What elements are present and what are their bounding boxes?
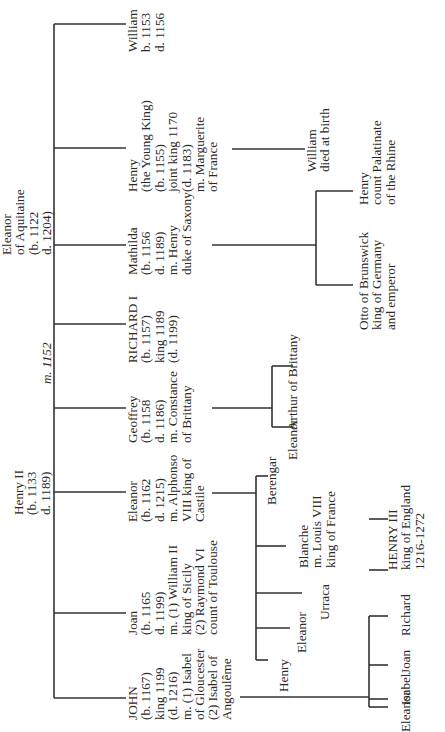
grandchild-otto-of-brunswick: Otto of Brunswickking of Germanyand empe…: [357, 232, 397, 330]
child-geoffrey: Geoffrey(b. 1158d. 1186)m. Constanceof B…: [126, 371, 193, 443]
grandchild-henry-of-castile: Henry: [277, 659, 290, 692]
grandchild-urraca: Urraca: [318, 584, 331, 620]
mother-eleanor-of-aquitaine: Eleanor of Aquitaine (b. 1122 d. 1204): [0, 189, 54, 255]
grandchild-berengar: Berengar: [265, 457, 278, 505]
child-mathilda: Mathilda(b. 1156d. 1189)m. Henryduke of …: [126, 192, 193, 275]
grandchild-joan: Joan: [399, 650, 412, 674]
grandchild-arthur-of-brittany: Arthur of Brittany: [286, 334, 299, 430]
tree-connectors: [0, 0, 445, 732]
grandchild-william-died-at-birth: Williamdied at birth: [305, 108, 332, 172]
grandchild-eleanor-of-castile-daughter: Eleanor: [295, 612, 308, 653]
grandchild-blanche: Blanchem. Louis VIIIking of France: [297, 491, 337, 568]
child-john: JOHN(b. 1167)king 1199(d. 1216)m. (1) Is…: [126, 649, 233, 720]
child-eleanor: Eleanor(b. 1162d. 1215)m. AlphonsoVIII k…: [126, 455, 206, 522]
grandchild-henry-count-palatinate: Henrycount Palatinateof the Rhine: [357, 120, 397, 205]
marriage-label: m. 1152: [40, 342, 53, 384]
grandchild-eleanor-of-brittany: Eleanor: [286, 419, 299, 460]
father-henry-ii: Henry II (b. 1133 d. 1189): [12, 470, 52, 515]
grandchild-eleanor-of-england: Eleanor: [399, 691, 412, 732]
child-william: Williamb. 1153d. 1156: [126, 9, 166, 52]
grandchild-henry-iii: HENRY IIIking of England1216-1272: [386, 485, 426, 570]
grandchild-richard: Richard: [399, 594, 412, 636]
child-richard-i: RICHARD I(b. 1157)king 1189(d. 1199): [126, 296, 180, 363]
child-henry-young-king: Henry(the Young King)(b. 1155)joint king…: [126, 100, 220, 192]
child-joan: Joan(b. 1165d. 1199)m. (1) William IIkin…: [126, 540, 220, 635]
